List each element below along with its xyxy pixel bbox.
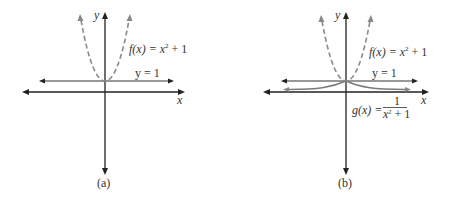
- y-axis-b: [343, 12, 349, 175]
- arrow-down-icon: [102, 168, 108, 175]
- g-curve-b: [283, 81, 411, 92]
- panel-b: y x f(x) = x2 + 1 y = 1 g(x) = 1 x2 + 1 …: [263, 8, 429, 190]
- x-axis-a: [22, 89, 185, 95]
- svg-text:x2 + 1: x2 + 1: [382, 107, 410, 121]
- panel-caption-b: (b): [338, 176, 352, 190]
- y-axis-label-a: y: [93, 8, 100, 22]
- panel-a: y x f(x) = x2 + 1 y = 1 (a): [22, 8, 187, 190]
- arrow-left-icon: [22, 89, 29, 95]
- y-axis-label-b: y: [334, 8, 341, 22]
- f-label-a: f(x) = x2 + 1: [129, 42, 187, 56]
- arrow-left-icon: [263, 89, 270, 95]
- panel-caption-a: (a): [97, 176, 110, 190]
- f-label-b: f(x) = x2 + 1: [369, 45, 427, 59]
- g-label-b: g(x) = 1 x2 + 1: [352, 94, 410, 121]
- arrow-up-icon: [343, 12, 349, 19]
- x-axis-label-b: x: [420, 93, 427, 107]
- svg-text:g(x) =: g(x) =: [352, 103, 382, 117]
- arrow-down-icon: [343, 168, 349, 175]
- asymptote-label-b: y = 1: [372, 66, 397, 80]
- figure: y x f(x) = x2 + 1 y = 1 (a): [0, 0, 449, 202]
- y-axis-a: [102, 12, 108, 175]
- x-axis-label-a: x: [176, 93, 183, 107]
- asymptote-label-a: y = 1: [135, 66, 160, 80]
- svg-text:1: 1: [394, 94, 400, 108]
- arrow-up-icon: [102, 12, 108, 19]
